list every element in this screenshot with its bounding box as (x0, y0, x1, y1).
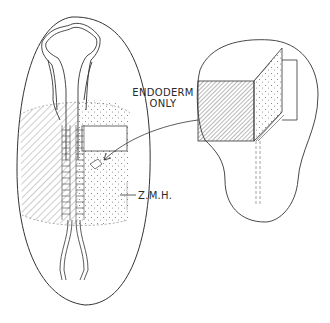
zmh-label: Z.M.H. (138, 190, 172, 201)
embryo-diagram: ENDODERM ONLY Z.M.H. (0, 0, 330, 323)
endoderm-only-label: ENDODERM ONLY (132, 87, 194, 109)
diagram-drawing (0, 0, 330, 323)
endoderm-label-line1: ENDODERM (132, 87, 194, 98)
explant-hatched-block (198, 48, 297, 205)
primitive-streak (60, 220, 88, 280)
endoderm-label-line2: ONLY (132, 98, 194, 109)
